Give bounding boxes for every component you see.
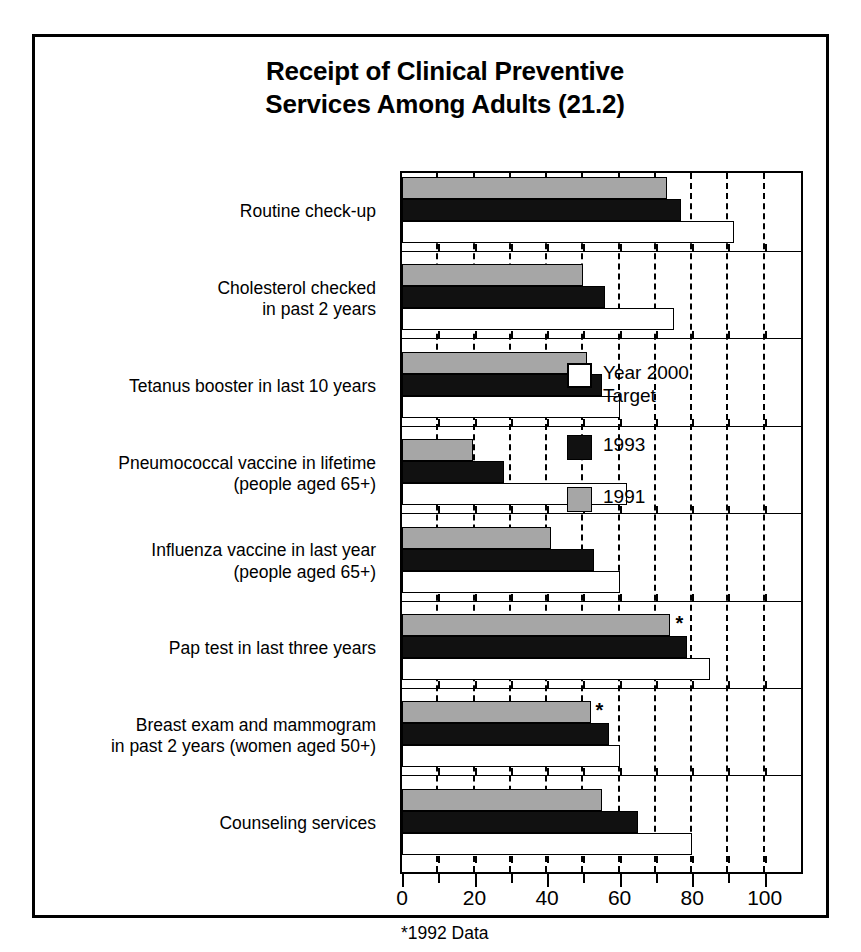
category-label-line: in past 2 years (women aged 50+) [46, 736, 376, 757]
row-tick [656, 331, 658, 338]
bar-s1993[interactable] [402, 549, 594, 571]
category-label-line: Influenza vaccine in last year [46, 540, 376, 561]
category-label-line: Breast exam and mammogram [46, 715, 376, 736]
row-tick [511, 856, 513, 863]
row-tick [728, 594, 730, 601]
row-tick [547, 506, 549, 513]
row-tick [438, 856, 440, 863]
category-label-line: Pap test in last three years [46, 638, 376, 659]
x-axis-label-80: 80 [680, 886, 703, 910]
bar-s1991[interactable] [402, 614, 670, 636]
row-tick [692, 768, 694, 775]
row-tick [765, 419, 767, 426]
bar-target[interactable] [402, 745, 620, 767]
row-tick [438, 681, 440, 688]
bar-s1991[interactable] [402, 701, 591, 723]
chart-title-line2: Services Among Adults (21.2) [135, 88, 755, 121]
legend-swatch-s1991-icon [567, 487, 592, 512]
row-tick [620, 681, 622, 688]
row-tick [728, 856, 730, 863]
chart-footnote: *1992 Data [401, 923, 489, 944]
category-axis-line [400, 872, 803, 874]
row-tick [656, 506, 658, 513]
row-tick [547, 681, 549, 688]
group-separator [400, 426, 803, 427]
row-tick [728, 244, 730, 251]
x-axis-label-40: 40 [535, 886, 558, 910]
category-label-line: (people aged 65+) [46, 474, 376, 495]
plot-area: ** [400, 171, 803, 874]
row-tick [547, 331, 549, 338]
row-tick [583, 419, 585, 426]
category-axis-labels: Routine check-upCholesterol checkedin pa… [45, 171, 390, 874]
bar-s1991[interactable] [402, 352, 587, 374]
row-tick [438, 419, 440, 426]
row-tick [620, 594, 622, 601]
category-label-line: Cholesterol checked [46, 278, 376, 299]
row-tick [728, 768, 730, 775]
x-tick-30 [511, 874, 513, 883]
row-tick [692, 331, 694, 338]
group-separator [400, 775, 803, 776]
x-tick-70 [656, 874, 658, 883]
row-tick [511, 244, 513, 251]
row-tick [583, 594, 585, 601]
row-tick [511, 331, 513, 338]
row-tick [728, 331, 730, 338]
bar-s1993[interactable] [402, 811, 638, 833]
row-tick [583, 681, 585, 688]
row-tick [475, 419, 477, 426]
group-separator [400, 251, 803, 252]
bar-target[interactable] [402, 833, 692, 855]
row-tick [765, 594, 767, 601]
row-tick [692, 856, 694, 863]
row-tick [547, 856, 549, 863]
bar-s1991[interactable] [402, 439, 473, 461]
row-tick [475, 244, 477, 251]
row-tick [620, 244, 622, 251]
row-tick [475, 506, 477, 513]
bar-s1991[interactable] [402, 264, 583, 286]
category-label: Routine check-up [46, 201, 376, 222]
row-tick [583, 331, 585, 338]
row-tick [475, 768, 477, 775]
legend-item[interactable]: 1991 [567, 485, 645, 512]
bar-target[interactable] [402, 571, 620, 593]
row-tick [547, 244, 549, 251]
bar-group [402, 523, 801, 609]
row-tick [511, 419, 513, 426]
bar-target[interactable] [402, 658, 710, 680]
asterisk-annotation-icon: * [596, 700, 604, 720]
bar-s1991[interactable] [402, 177, 667, 199]
category-label: Pneumococcal vaccine in lifetime(people … [46, 453, 376, 496]
row-tick [692, 681, 694, 688]
row-tick [765, 856, 767, 863]
legend-label: Year 2000 Target [603, 361, 689, 407]
row-tick [547, 768, 549, 775]
bar-target[interactable] [402, 221, 734, 243]
bar-s1991[interactable] [402, 789, 602, 811]
row-tick [656, 419, 658, 426]
bar-s1993[interactable] [402, 461, 504, 483]
row-tick [692, 244, 694, 251]
legend-item[interactable]: 1993 [567, 433, 645, 460]
bar-target[interactable] [402, 308, 674, 330]
row-tick [438, 244, 440, 251]
row-tick [765, 681, 767, 688]
category-label: Tetanus booster in last 10 years [46, 376, 376, 397]
row-tick [475, 594, 477, 601]
row-tick [656, 768, 658, 775]
legend-label: 1991 [603, 485, 645, 508]
bar-s1991[interactable] [402, 527, 551, 549]
row-tick [728, 506, 730, 513]
row-tick [656, 244, 658, 251]
bar-s1993[interactable] [402, 286, 605, 308]
group-separator [400, 338, 803, 339]
legend-item[interactable]: Year 2000 Target [567, 361, 689, 407]
bar-s1993[interactable] [402, 636, 687, 658]
group-separator [400, 601, 803, 602]
bar-s1993[interactable] [402, 723, 609, 745]
bar-s1993[interactable] [402, 199, 681, 221]
chart-title: Receipt of Clinical Preventive Services … [135, 55, 755, 122]
x-axis-label-60: 60 [608, 886, 631, 910]
